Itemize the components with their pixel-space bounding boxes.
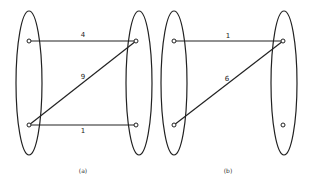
edge-weight-label: 4: [81, 31, 86, 39]
edge-weight-label: 1: [81, 127, 85, 135]
vertex-r2: [134, 123, 138, 127]
figure-b: 1 6 (b): [161, 11, 297, 174]
vertex-l1: [172, 39, 176, 43]
vertex-l2: [172, 123, 176, 127]
edge-l2-r1: [29, 41, 136, 125]
vertex-l1: [27, 39, 31, 43]
right-vertex-set: [126, 11, 152, 155]
edge-weight-label: 1: [226, 32, 230, 40]
edge-weight-label: 9: [81, 73, 85, 81]
vertex-r2: [281, 123, 285, 127]
left-vertex-set: [161, 11, 187, 155]
vertex-r1: [134, 39, 138, 43]
edge-weight-label: 6: [225, 75, 230, 83]
bipartite-matching-diagram: 4 9 1 (a) 1 6 (b): [0, 0, 309, 184]
left-vertex-set: [16, 11, 42, 155]
edge-l2-r1: [174, 41, 283, 125]
right-vertex-set: [271, 11, 297, 155]
figure-caption: (a): [79, 167, 87, 174]
figure-caption: (b): [224, 167, 233, 174]
vertex-l2: [27, 123, 31, 127]
vertex-r1: [281, 39, 285, 43]
figure-a: 4 9 1 (a): [16, 11, 152, 174]
